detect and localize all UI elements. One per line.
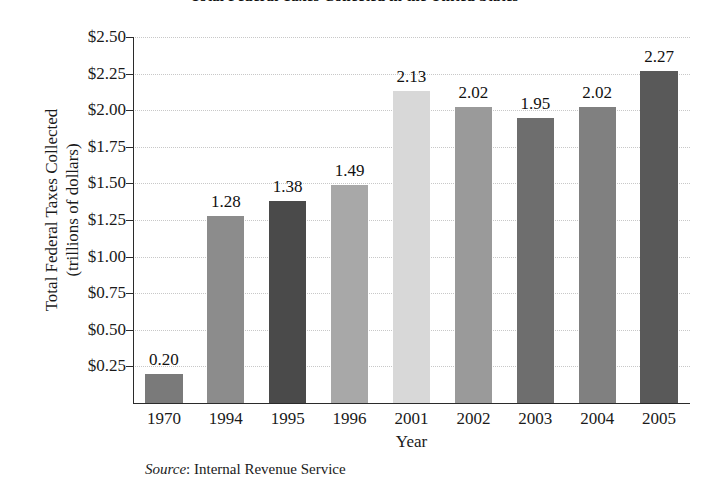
bar[interactable] [579,107,616,403]
bar-value-label: 2.02 [582,83,612,103]
y-tick-label: $0.75 [54,283,126,303]
y-tick-mark [126,330,133,331]
y-tick-label: $1.50 [54,173,126,193]
bar-group: 1.381995 [257,37,319,403]
plot-area: $2.50$2.25$2.00$1.75$1.50$1.25$1.00$0.75… [133,37,690,403]
bar-group: 1.491996 [319,37,381,403]
bar-value-label: 1.95 [520,94,550,114]
y-tick-mark [126,147,133,148]
source-text: Internal Revenue Service [194,461,346,477]
bar-group: 1.952003 [504,37,566,403]
y-tick-label: $0.50 [54,320,126,340]
bar-group: 2.132001 [381,37,443,403]
x-tick-label: 2001 [394,409,428,429]
bar[interactable] [145,374,182,403]
bar-value-label: 1.49 [335,161,365,181]
x-tick-label: 2002 [456,409,490,429]
x-tick-label: 1994 [209,409,243,429]
bar[interactable] [207,216,244,403]
y-tick-mark [126,257,133,258]
y-tick-label: $0.25 [54,356,126,376]
bar-value-label: 2.27 [644,47,674,67]
y-tick-label: $1.25 [54,210,126,230]
bar[interactable] [455,107,492,403]
y-tick-mark [126,366,133,367]
source-note: Source: Internal Revenue Service [145,461,346,478]
bar-group: 0.201970 [133,37,195,403]
bar-value-label: 2.02 [459,83,489,103]
y-tick-mark [126,110,133,111]
bar[interactable] [393,91,430,403]
y-tick-mark [126,220,133,221]
bar-series: 0.2019701.2819941.3819951.4919962.132001… [133,37,690,403]
x-tick-label: 2003 [518,409,552,429]
y-tick-mark [126,293,133,294]
bar-value-label: 2.13 [397,67,427,87]
bar[interactable] [269,201,306,403]
x-tick-label: 1996 [333,409,367,429]
y-tick-mark [126,37,133,38]
x-axis-line [133,403,690,404]
bar-value-label: 1.38 [273,177,303,197]
x-tick-label: 1995 [271,409,305,429]
bar-group: 1.281994 [195,37,257,403]
x-tick-label: 1970 [147,409,181,429]
x-axis-title: Year [133,432,690,452]
bar-group: 2.022004 [566,37,628,403]
bar[interactable] [331,185,368,403]
y-tick-label: $1.00 [54,247,126,267]
y-tick-label: $2.50 [54,27,126,47]
source-separator: : [186,461,194,477]
x-tick-label: 2005 [642,409,676,429]
y-tick-mark [126,74,133,75]
bar-group: 2.272005 [628,37,690,403]
bar-value-label: 0.20 [149,350,179,370]
chart-title: Total Federal Taxes Collected in the Uni… [0,0,709,5]
bar-group: 2.022002 [442,37,504,403]
source-label: Source [145,461,186,477]
x-tick-label: 2004 [580,409,614,429]
y-tick-mark [126,183,133,184]
y-tick-label: $2.25 [54,64,126,84]
bar[interactable] [640,71,677,403]
bar-value-label: 1.28 [211,192,241,212]
bar[interactable] [517,118,554,403]
y-tick-label: $1.75 [54,137,126,157]
y-tick-label: $2.00 [54,100,126,120]
chart-figure: Total Federal Taxes Collected in the Uni… [0,0,709,489]
